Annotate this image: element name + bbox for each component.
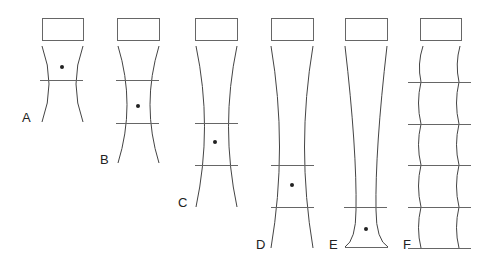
panel-label: B [100,152,109,167]
panel-label: D [256,237,265,252]
marker-lines [408,83,471,249]
right-wall [76,46,83,122]
panel-label: C [178,195,187,210]
panel-b: B [100,19,160,168]
marker-dot [213,140,217,144]
panel-label: F [403,237,411,252]
left-wall [196,46,205,207]
top-box [272,19,314,41]
right-wall [376,46,388,247]
left-wall [42,46,49,122]
right-wall [229,46,238,207]
top-box [196,19,238,41]
marker-dot [60,65,64,69]
panel-f: F [403,19,471,253]
top-box [346,19,388,41]
tube-stages-diagram: A B C D [0,0,490,262]
marker-lines [195,124,238,166]
right-wall [305,46,314,248]
left-wall [345,46,356,247]
left-wall [118,46,127,163]
marker-dot [364,227,368,231]
panel-c: C [178,19,238,211]
marker-dot [290,183,294,187]
marker-dot [136,104,140,108]
right-wall [150,46,159,163]
top-box [43,19,84,41]
panel-a: A [22,19,84,126]
panel-label: A [22,110,31,125]
panel-e: E [329,19,388,253]
top-box [118,19,160,41]
left-wall [271,46,280,248]
top-box [421,19,462,41]
right-wall [457,46,461,248]
left-wall [419,46,424,248]
diagram-canvas: A B C D [0,0,490,262]
panel-label: E [329,237,338,252]
marker-lines [116,81,159,124]
panel-d: D [256,19,314,253]
